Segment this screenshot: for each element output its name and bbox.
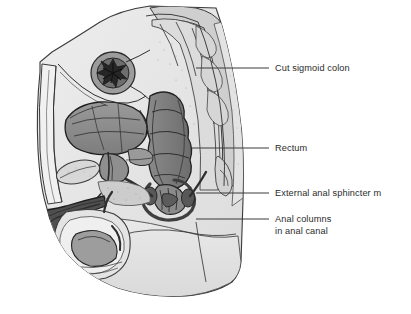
label-text-anal-columns-line2: in anal canal (275, 226, 328, 236)
label-text-cut-sigmoid-colon: Cut sigmoid colon (275, 63, 350, 73)
bladder-structure (65, 102, 147, 155)
label-text-anal-columns-line1: Anal columns (275, 214, 332, 224)
label-text-external-anal-sphincter: External anal sphincter m (275, 188, 381, 198)
anatomy-figure: Cut sigmoid colon Rectum External anal s… (0, 0, 411, 314)
label-text-rectum: Rectum (275, 143, 308, 153)
